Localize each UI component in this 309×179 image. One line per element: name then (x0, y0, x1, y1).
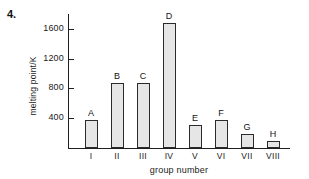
bar: H (267, 141, 280, 148)
x-tick-label: VII (241, 151, 252, 161)
x-axis-line (68, 148, 290, 149)
bar: C (137, 83, 150, 149)
figure-container: 4. melting point/K 400 800 1200 1600 A B (0, 0, 309, 179)
y-tick-group: 400 (68, 118, 74, 119)
bar-value-label: A (88, 108, 94, 119)
bar-value-label: G (243, 122, 250, 133)
y-tick-label: 1200 (43, 53, 64, 64)
bar: G (241, 134, 254, 148)
question-number-label: 4. (7, 8, 16, 20)
y-tick-group: 800 (68, 88, 74, 89)
bar: E (189, 125, 202, 148)
x-tick-label: IV (165, 151, 174, 161)
y-tick-mark (69, 59, 74, 60)
plot-area: 400 800 1200 1600 A B C D E F (68, 14, 290, 148)
bar: D (163, 23, 176, 148)
y-axis-title-text: melting point/K (28, 56, 38, 115)
bar-value-label: D (166, 11, 173, 22)
bar-value-label: F (218, 108, 224, 119)
bar-value-label: C (140, 71, 147, 82)
y-tick-label: 800 (48, 82, 64, 93)
x-tick-label: VI (217, 151, 226, 161)
y-tick-label: 400 (48, 112, 64, 123)
y-axis-line (68, 14, 69, 148)
x-axis-title: group number (68, 165, 290, 175)
y-tick-label: 1600 (43, 23, 64, 34)
x-tick-label: III (139, 151, 147, 161)
bar: A (85, 120, 98, 148)
x-tick-label: VIII (266, 151, 280, 161)
y-tick-group: 1200 (68, 59, 74, 60)
y-tick-mark (69, 88, 74, 89)
x-tick-label: I (90, 151, 93, 161)
y-tick-group: 1600 (68, 29, 74, 30)
x-tick-label: V (192, 151, 198, 161)
bar: F (215, 120, 228, 148)
bar-value-label: E (192, 113, 198, 124)
y-tick-mark (69, 118, 74, 119)
y-axis-title: melting point/K (26, 36, 40, 136)
bar-value-label: H (270, 129, 277, 140)
x-tick-label: II (114, 151, 119, 161)
y-tick-mark (69, 29, 74, 30)
bar: B (111, 83, 124, 148)
bar-value-label: B (114, 71, 120, 82)
